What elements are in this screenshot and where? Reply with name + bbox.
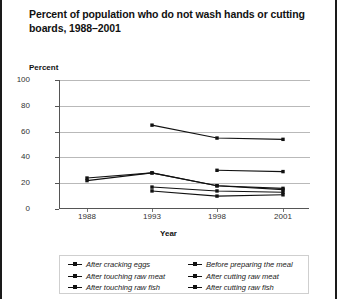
legend-item-label: After cutting raw fish [206, 283, 274, 292]
legend-item[interactable]: After cutting raw meat [188, 271, 293, 282]
legend-item[interactable]: After cracking eggs [68, 259, 165, 270]
chart-legend: After cracking eggsAfter touching raw me… [59, 255, 309, 294]
legend-item-label: Before preparing the meal [206, 260, 293, 269]
gridline [60, 157, 310, 158]
legend-marker-icon [188, 283, 202, 292]
chart-title: Percent of population who do not wash ha… [29, 8, 319, 35]
legend-column-right: Before preparing the mealAfter cutting r… [188, 259, 293, 294]
y-axis-title: Percent [29, 63, 58, 72]
x-axis-tick-label: 2001 [263, 212, 303, 221]
gridline [60, 183, 310, 184]
legend-item-label: After cutting raw meat [206, 272, 279, 281]
legend-marker-icon [68, 283, 82, 292]
x-axis-tick-mark [217, 209, 218, 212]
legend-marker-icon [188, 260, 202, 269]
legend-item[interactable]: After touching raw meat [68, 271, 165, 282]
y-axis-tick-label: 60 [4, 127, 30, 136]
legend-item[interactable]: After touching raw fish [68, 282, 165, 293]
x-axis-tick-label: 1993 [132, 212, 172, 221]
legend-column-left: After cracking eggsAfter touching raw me… [68, 259, 165, 294]
legend-marker-icon [68, 272, 82, 281]
y-axis-tick-label: 100 [4, 75, 30, 84]
x-axis-tick-mark [283, 209, 284, 212]
x-axis-tick-mark [87, 209, 88, 212]
legend-item-label: After touching raw meat [86, 272, 165, 281]
plot-area [59, 80, 309, 209]
gridline [60, 80, 310, 81]
chart-frame: Percent of population who do not wash ha… [0, 0, 337, 299]
legend-item-label: After cracking eggs [86, 260, 150, 269]
legend-marker-icon [188, 272, 202, 281]
y-axis-tick-label: 20 [4, 178, 30, 187]
y-axis-tick-mark [55, 209, 59, 210]
x-axis-tick-mark [152, 209, 153, 212]
gridline [60, 106, 310, 107]
y-axis-tick-label: 40 [4, 152, 30, 161]
legend-item[interactable]: After cutting raw fish [188, 282, 293, 293]
y-axis-tick-label: 0 [4, 204, 30, 213]
legend-item-label: After touching raw fish [86, 283, 160, 292]
y-axis-tick-label: 80 [4, 101, 30, 110]
x-axis-title: Year [2, 229, 335, 238]
legend-item[interactable]: Before preparing the meal [188, 259, 293, 270]
gridline [60, 132, 310, 133]
legend-marker-icon [68, 260, 82, 269]
x-axis-tick-label: 1998 [197, 212, 237, 221]
x-axis-tick-label: 1988 [67, 212, 107, 221]
